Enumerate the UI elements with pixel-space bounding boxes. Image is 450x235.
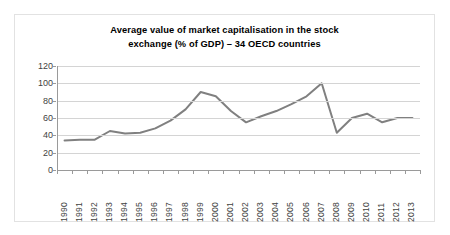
gridline <box>57 83 420 84</box>
x-axis-tick-mark <box>254 171 255 174</box>
y-axis-tick-label: 40 <box>19 130 53 140</box>
x-axis-tick-label: 2004 <box>270 202 280 222</box>
line-series-path <box>65 83 413 140</box>
x-axis-tick-mark <box>360 171 361 174</box>
x-axis-tick-mark <box>314 171 315 174</box>
y-axis-tick-mark <box>53 101 56 102</box>
x-axis-tick-mark <box>223 171 224 174</box>
x-axis-tick-label: 2005 <box>285 202 295 222</box>
x-axis-tick-mark <box>118 171 119 174</box>
x-axis-tick-mark <box>269 171 270 174</box>
x-axis-tick-label: 2011 <box>376 203 386 222</box>
x-axis-tick-mark <box>163 171 164 174</box>
x-axis-tick-label: 1997 <box>164 202 174 222</box>
gridline <box>57 66 420 67</box>
x-axis-tick-label: 2003 <box>255 202 265 222</box>
y-axis-tick-mark <box>53 66 56 67</box>
x-axis-tick-label: 1999 <box>195 202 205 222</box>
x-axis-tick-mark <box>329 171 330 174</box>
x-axis-tick-label: 1995 <box>134 202 144 222</box>
x-axis-tick-mark <box>72 171 73 174</box>
gridline <box>57 135 420 136</box>
y-axis-tick-mark <box>53 118 56 119</box>
x-axis-tick-mark <box>405 171 406 174</box>
x-axis-tick-label: 1998 <box>180 202 190 222</box>
x-axis-tick-mark <box>102 171 103 174</box>
x-axis-tick-label: 2006 <box>301 202 311 222</box>
x-axis-tick-mark <box>420 171 421 174</box>
x-axis-tick-label: 1994 <box>119 202 129 222</box>
x-axis-tick-mark <box>193 171 194 174</box>
gridline <box>57 118 420 119</box>
x-axis-tick-label: 2007 <box>316 202 326 222</box>
x-axis-tick-label: 2009 <box>346 202 356 222</box>
y-axis-tick-label: 60 <box>19 113 53 123</box>
y-axis-tick-label: 120 <box>19 61 53 71</box>
x-axis-tick-label: 2013 <box>406 202 416 222</box>
y-axis-labels: 020406080100120 <box>15 66 53 170</box>
plot-area <box>57 66 420 170</box>
x-axis-tick-label: 2012 <box>391 202 401 222</box>
y-axis-tick-mark <box>53 153 56 154</box>
x-axis-tick-label: 2010 <box>361 202 371 222</box>
x-axis-tick-label: 1991 <box>74 202 84 222</box>
y-axis-line <box>57 66 58 171</box>
x-axis-tick-mark <box>284 171 285 174</box>
y-axis-tick-mark <box>53 83 56 84</box>
gridline <box>57 101 420 102</box>
x-axis-tick-mark <box>148 171 149 174</box>
x-axis-tick-mark <box>390 171 391 174</box>
x-axis-tick-label: 1992 <box>89 202 99 222</box>
x-axis-tick-label: 1996 <box>149 202 159 222</box>
x-axis-tick-mark <box>133 171 134 174</box>
x-axis-labels: 1990199119921993199419951996199719981999… <box>57 176 420 222</box>
gridline <box>57 153 420 154</box>
y-axis-tick-label: 80 <box>19 96 53 106</box>
x-axis-tick-label: 2008 <box>331 202 341 222</box>
y-axis-tick-label: 20 <box>19 148 53 158</box>
x-axis-tick-mark <box>344 171 345 174</box>
x-axis-tick-label: 1993 <box>104 202 114 222</box>
x-axis-tick-mark <box>178 171 179 174</box>
x-axis-tick-label: 1990 <box>59 202 69 222</box>
x-axis-tick-mark <box>375 171 376 174</box>
x-axis-ticks <box>57 171 420 175</box>
x-axis-tick-label: 2000 <box>210 202 220 222</box>
x-axis-tick-mark <box>208 171 209 174</box>
x-axis-tick-mark <box>239 171 240 174</box>
plot-wrapper: 020406080100120 199019911992199319941995… <box>15 15 436 223</box>
x-axis-tick-label: 2002 <box>240 202 250 222</box>
x-axis-tick-mark <box>299 171 300 174</box>
x-axis-tick-label: 2001 <box>225 202 235 222</box>
y-axis-tick-label: 100 <box>19 78 53 88</box>
chart-card: Average value of market capitalisation i… <box>14 14 435 222</box>
y-axis-tick-label: 0 <box>19 165 53 175</box>
x-axis-tick-mark <box>57 171 58 174</box>
x-axis-tick-mark <box>87 171 88 174</box>
y-axis-tick-mark <box>53 170 56 171</box>
y-axis-tick-mark <box>53 135 56 136</box>
